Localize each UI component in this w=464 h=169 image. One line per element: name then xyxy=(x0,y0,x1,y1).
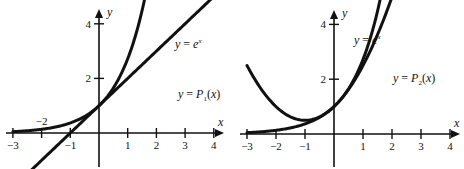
series-annotation-taylor: y = P2(x) xyxy=(392,71,435,87)
x-tick-label: −2 xyxy=(36,115,48,127)
x-tick-label: −1 xyxy=(299,140,311,152)
y-tick-label: 4 xyxy=(321,18,327,30)
x-tick-label: 3 xyxy=(418,140,424,152)
series-annotation-taylor: y = P1(x) xyxy=(177,87,220,103)
y-axis-arrow-icon xyxy=(95,9,103,18)
x-tick-label: −3 xyxy=(7,139,19,151)
x-tick-label: 1 xyxy=(360,140,366,152)
left-chart-panel: xy−3−2−11234−22468y = exy = P1(x) xyxy=(6,0,224,169)
y-tick-label: 2 xyxy=(321,73,327,85)
x-axis-label: x xyxy=(453,116,460,130)
x-tick-label: −2 xyxy=(270,140,282,152)
y-axis-arrow-icon xyxy=(330,10,338,19)
x-tick-label: 2 xyxy=(389,140,395,152)
x-axis-arrow-icon xyxy=(451,130,460,138)
x-axis-arrow-icon xyxy=(215,129,224,137)
y-axis-label: y xyxy=(341,6,348,20)
x-axis-label: x xyxy=(217,115,224,129)
y-tick-label: 2 xyxy=(86,72,92,84)
y-tick-label: 4 xyxy=(86,18,92,30)
x-tick-label: 3 xyxy=(182,139,188,151)
x-tick-label: 4 xyxy=(447,140,453,152)
x-tick-label: 2 xyxy=(154,139,160,151)
series-annotation-exp: y = ex xyxy=(174,37,202,51)
right-chart-panel: xy−3−2−11234−22468y = exy = P2(x) xyxy=(240,0,460,169)
x-tick-label: 1 xyxy=(125,139,131,151)
x-tick-label: −1 xyxy=(64,139,76,151)
y-axis-label: y xyxy=(106,5,113,19)
figure: xy−3−2−11234−22468y = exy = P1(x) xy−3−2… xyxy=(0,0,464,169)
x-tick-label: 4 xyxy=(211,139,217,151)
x-tick-label: −3 xyxy=(241,140,253,152)
